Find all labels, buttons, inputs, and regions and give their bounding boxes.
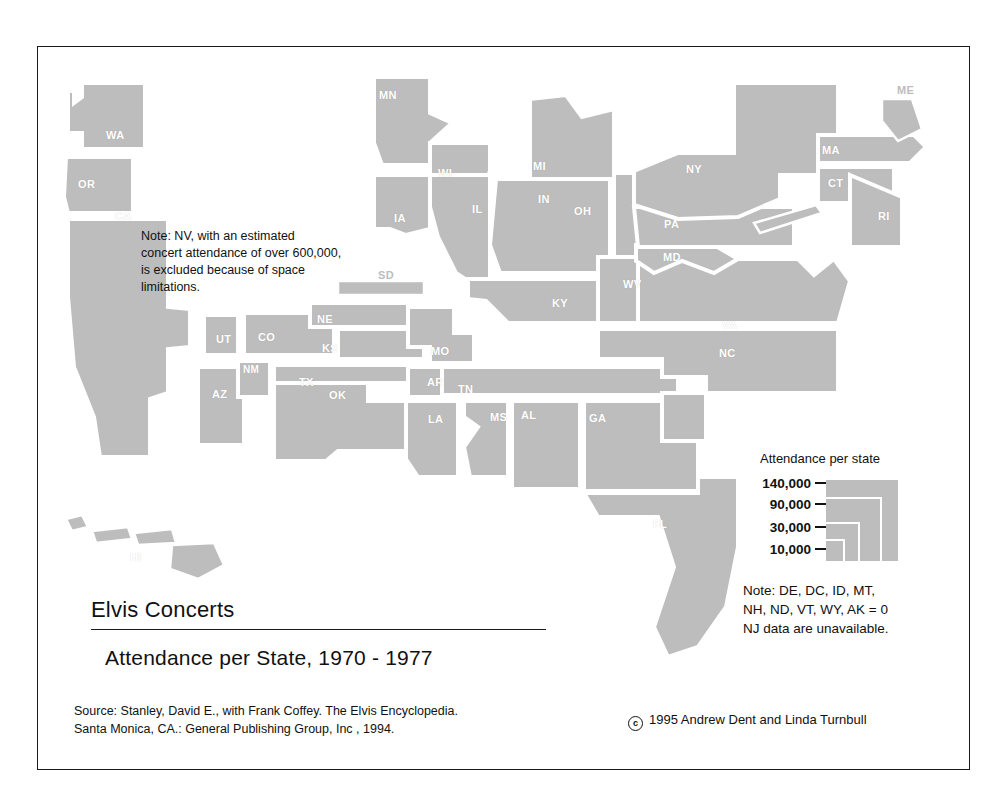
- legend-tick-label-2: 30,000: [770, 520, 811, 535]
- legend-nested-squares: [826, 480, 898, 561]
- state-HI-2: [92, 527, 132, 543]
- legend-note: Note: DE, DC, ID, MT, NH, ND, VT, WY, AK…: [743, 581, 958, 638]
- title-block: Elvis Concerts Attendance per State, 197…: [91, 597, 551, 670]
- state-OR: [64, 157, 133, 213]
- state-AR: [408, 367, 442, 397]
- copyright-text: 1995 Andrew Dent and Linda Turnbull: [649, 712, 867, 727]
- legend-tick-dash-1: [815, 503, 826, 505]
- legend-tick-dash-2: [815, 526, 826, 528]
- nevada-note: Note: NV, with an estimated concert atte…: [141, 228, 341, 296]
- copyright-icon: c: [628, 716, 643, 731]
- state-WA: [68, 83, 145, 149]
- state-NY: [634, 83, 838, 219]
- state-HI-4: [170, 543, 224, 579]
- state-TX: [274, 383, 418, 461]
- state-HI-3: [134, 529, 176, 545]
- state-OK: [274, 365, 418, 383]
- state-AL: [512, 401, 580, 489]
- legend-title: Attendance per state: [760, 451, 958, 466]
- legend-tick-10000: 10,000: [743, 542, 826, 557]
- state-MS: [464, 401, 508, 477]
- poster-canvas: WA OR CA UT AZ CO NM TX OK KS NE SD MN I…: [0, 0, 998, 794]
- state-LA: [406, 401, 458, 477]
- page-subtitle: Attendance per State, 1970 - 1977: [105, 646, 551, 670]
- state-SC: [662, 393, 706, 441]
- state-MI: [530, 95, 614, 179]
- title-divider: [91, 629, 546, 630]
- legend-tick-30000: 30,000: [743, 520, 826, 535]
- legend-tick-dash-0: [815, 482, 826, 484]
- legend-tick-label-1: 90,000: [770, 497, 811, 512]
- state-TN: [442, 367, 678, 395]
- legend-tick-dash-3: [815, 548, 826, 550]
- state-IN: [490, 179, 610, 273]
- legend-tick-140000: 140,000: [743, 476, 826, 491]
- legend: Attendance per state 140,000 90,000 30,0…: [743, 451, 958, 638]
- state-NM: [238, 361, 270, 397]
- state-SD: [338, 281, 424, 295]
- legend-tick-label-0: 140,000: [762, 476, 811, 491]
- state-HI: [66, 515, 88, 531]
- legend-body: 140,000 90,000 30,000 10,000: [743, 480, 958, 565]
- poster-frame: WA OR CA UT AZ CO NM TX OK KS NE SD MN I…: [37, 46, 970, 770]
- copyright-line: c1995 Andrew Dent and Linda Turnbull: [628, 712, 867, 731]
- state-UT: [204, 315, 238, 355]
- page-title: Elvis Concerts: [91, 597, 551, 623]
- source-citation: Source: Stanley, David E., with Frank Co…: [74, 702, 458, 738]
- state-IA: [374, 175, 430, 235]
- state-FL: [584, 477, 738, 657]
- legend-tick-90000: 90,000: [743, 497, 826, 512]
- state-MA: [818, 135, 926, 163]
- legend-swatch-10000: [826, 539, 845, 561]
- state-VA: [638, 259, 850, 323]
- state-IL: [430, 175, 490, 285]
- legend-tick-label-3: 10,000: [770, 542, 811, 557]
